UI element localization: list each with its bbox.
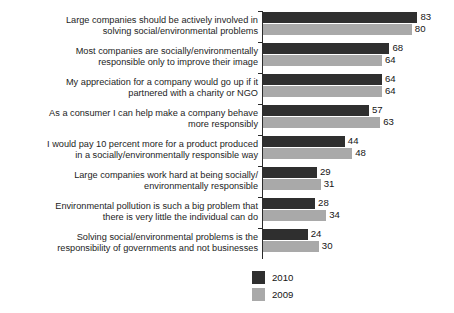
bar-2009 bbox=[263, 241, 319, 252]
bar-value-label: 29 bbox=[320, 166, 331, 178]
bar-2010 bbox=[263, 12, 417, 23]
bar-2010 bbox=[263, 105, 369, 116]
bar-value-label: 64 bbox=[385, 73, 396, 85]
bar-group: Large companies should be actively invol… bbox=[0, 11, 454, 42]
legend-swatch-2010 bbox=[252, 271, 265, 284]
bar-group: Solving social/environmental problems is… bbox=[0, 228, 454, 259]
bar-value-label: 57 bbox=[372, 104, 383, 116]
bar-2010 bbox=[263, 198, 315, 209]
legend-item-2010: 2010 bbox=[252, 270, 372, 287]
category-label: My appreciation for a company would go u… bbox=[6, 77, 258, 100]
bar-value-label: 48 bbox=[355, 147, 366, 159]
category-label: As a consumer I can help make a company … bbox=[6, 108, 258, 131]
bar-2009 bbox=[263, 55, 382, 66]
bar-2010 bbox=[263, 136, 345, 147]
bar-group: As a consumer I can help make a company … bbox=[0, 104, 454, 135]
category-label: Environmental pollution is such a big pr… bbox=[6, 201, 258, 224]
plot-area: Large companies should be actively invol… bbox=[0, 0, 454, 266]
bar-group: Most companies are socially/environmenta… bbox=[0, 42, 454, 73]
bar-value-label: 34 bbox=[329, 209, 340, 221]
bar-value-label: 80 bbox=[415, 23, 426, 35]
bar-2009 bbox=[263, 24, 412, 35]
bar-group: Environmental pollution is such a big pr… bbox=[0, 197, 454, 228]
bar-value-label: 24 bbox=[311, 228, 322, 240]
bar-2010 bbox=[263, 43, 389, 54]
bar-value-label: 30 bbox=[322, 240, 333, 252]
bar-2009 bbox=[263, 117, 380, 128]
bar-2009 bbox=[263, 86, 382, 97]
chart-legend: 2010 2009 bbox=[252, 270, 372, 304]
bar-value-label: 44 bbox=[348, 135, 359, 147]
category-label: I would pay 10 percent more for a produc… bbox=[6, 139, 258, 162]
category-label: Large companies should be actively invol… bbox=[6, 15, 258, 38]
bar-value-label: 28 bbox=[318, 197, 329, 209]
bar-value-label: 64 bbox=[385, 54, 396, 66]
bar-2009 bbox=[263, 179, 321, 190]
legend-item-2009: 2009 bbox=[252, 287, 372, 304]
bar-2010 bbox=[263, 167, 317, 178]
bar-value-label: 68 bbox=[392, 42, 403, 54]
legend-label-2009: 2009 bbox=[272, 288, 293, 301]
bar-2009 bbox=[263, 148, 352, 159]
bar-group: My appreciation for a company would go u… bbox=[0, 73, 454, 104]
legend-label-2010: 2010 bbox=[272, 271, 293, 284]
bar-value-label: 83 bbox=[420, 11, 431, 23]
bar-2010 bbox=[263, 74, 382, 85]
bar-value-label: 63 bbox=[383, 116, 394, 128]
bar-group: Large companies work hard at being socia… bbox=[0, 166, 454, 197]
bar-value-label: 64 bbox=[385, 85, 396, 97]
bar-2010 bbox=[263, 229, 308, 240]
bar-group: I would pay 10 percent more for a produc… bbox=[0, 135, 454, 166]
legend-swatch-2009 bbox=[252, 288, 265, 301]
category-label: Most companies are socially/environmenta… bbox=[6, 46, 258, 69]
bar-chart: Large companies should be actively invol… bbox=[0, 0, 454, 313]
bar-value-label: 31 bbox=[324, 178, 335, 190]
category-label: Large companies work hard at being socia… bbox=[6, 170, 258, 193]
bar-2009 bbox=[263, 210, 326, 221]
category-label: Solving social/environmental problems is… bbox=[6, 232, 258, 255]
